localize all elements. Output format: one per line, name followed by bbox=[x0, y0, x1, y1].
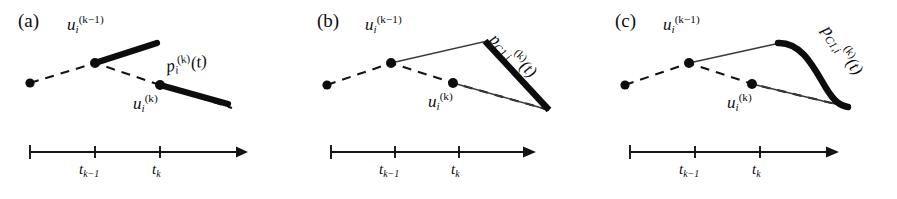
time-axis bbox=[630, 145, 839, 159]
knot-dot bbox=[322, 80, 331, 89]
axis-tick-label-prev: tk−1 bbox=[679, 162, 699, 177]
label-knot-cur: ui(k) bbox=[428, 93, 453, 110]
label-knot-cur: ui(k) bbox=[727, 94, 752, 111]
panel-a: (a) ui(k−1) ui(k) pi(k)(t) tk−1 tk bbox=[0, 0, 300, 199]
axis-arrowhead bbox=[826, 147, 839, 158]
panel-tag: (a) bbox=[18, 11, 39, 30]
knot-dot bbox=[684, 58, 694, 68]
label-knot-prev: ui(k−1) bbox=[663, 16, 700, 33]
knot-dot bbox=[620, 80, 629, 89]
knot-dot bbox=[386, 58, 396, 68]
label-knot-prev: ui(k−1) bbox=[365, 16, 402, 33]
panel-b: (b) ui(k−1) ui(k) pC1,i(k)(t) tk−1 tk bbox=[295, 0, 595, 199]
axis-arrowhead bbox=[236, 147, 248, 158]
axis-arrowhead bbox=[523, 147, 536, 158]
path-segment-thick bbox=[160, 85, 228, 104]
knot-dot bbox=[25, 78, 34, 87]
figure-three-panel-continuity: (a) ui(k−1) ui(k) pi(k)(t) tk−1 tk bbox=[0, 0, 897, 199]
axis-tick-label-prev: tk−1 bbox=[79, 162, 99, 177]
path-segment-thick bbox=[95, 43, 157, 63]
axis-tick-label-cur: tk bbox=[451, 162, 460, 177]
panel-c: (c) ui(k−1) ui(k) pC1,i(k)(t) tk−1 tk bbox=[590, 0, 897, 199]
construction-polyline-thin bbox=[689, 43, 780, 63]
axis-tick-label-cur: tk bbox=[152, 162, 161, 177]
label-knot-prev: ui(k−1) bbox=[67, 16, 104, 33]
time-axis bbox=[331, 145, 536, 159]
knot-dot bbox=[448, 78, 458, 88]
knot-dot bbox=[747, 79, 757, 89]
axis-tick-label-cur: tk bbox=[752, 162, 761, 177]
label-knot-cur: ui(k) bbox=[133, 95, 158, 112]
panel-tag: (c) bbox=[615, 11, 636, 30]
axis-tick-label-prev: tk−1 bbox=[379, 162, 399, 177]
time-axis bbox=[30, 145, 248, 159]
panel-tag: (b) bbox=[317, 11, 339, 30]
